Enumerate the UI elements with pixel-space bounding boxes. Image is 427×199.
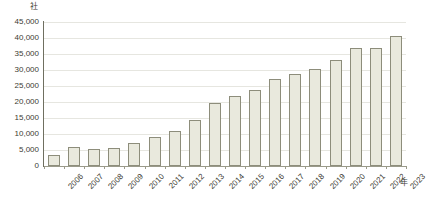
x-axis-tick-label: 2010	[147, 172, 166, 191]
bar[interactable]	[88, 149, 100, 166]
bar-slot	[145, 22, 165, 166]
x-axis-tick-label: 2007	[86, 172, 105, 191]
bar-slot	[305, 22, 325, 166]
bar[interactable]	[330, 60, 342, 166]
y-axis-tick-label: 25,000	[0, 82, 39, 90]
y-axis-tick-label: 5,000	[0, 146, 39, 154]
y-axis-tick-label: 40,000	[0, 34, 39, 42]
bar[interactable]	[269, 79, 281, 166]
x-axis-tick-label: 2017	[287, 172, 306, 191]
bar[interactable]	[189, 120, 201, 166]
bar[interactable]	[309, 69, 321, 166]
bar-slot	[225, 22, 245, 166]
x-axis-tick-label: 2020	[348, 172, 367, 191]
x-axis-tick-label: 2019	[328, 172, 347, 191]
bar-slot	[326, 22, 346, 166]
x-axis-tick-label: 2016	[267, 172, 286, 191]
x-axis-tick-label: 2018	[308, 172, 327, 191]
x-axis-title: 年	[400, 178, 408, 187]
x-axis-tick-label: 2012	[187, 172, 206, 191]
x-axis-tick-label: 2021	[368, 172, 387, 191]
x-axis-tick-label: 2006	[66, 172, 85, 191]
plot-area	[44, 22, 406, 166]
x-axis-tick-label: 2013	[207, 172, 226, 191]
x-axis-tick-label: 2015	[247, 172, 266, 191]
x-axis-tick-label: 2011	[167, 172, 186, 191]
bar[interactable]	[169, 131, 181, 166]
bar-slot	[366, 22, 386, 166]
bar[interactable]	[128, 143, 140, 166]
bar-slot	[104, 22, 124, 166]
y-axis-tick-label: 10,000	[0, 130, 39, 138]
bar-slot	[386, 22, 406, 166]
y-axis-tick-label: 45,000	[0, 18, 39, 26]
bar[interactable]	[370, 48, 382, 166]
bar-slot	[165, 22, 185, 166]
x-axis-tick-label: 2023	[408, 172, 427, 191]
x-axis-tick-label: 2009	[127, 172, 146, 191]
bar[interactable]	[209, 103, 221, 166]
bar[interactable]	[108, 148, 120, 166]
y-axis-tick-label: 15,000	[0, 114, 39, 122]
bar-slot	[64, 22, 84, 166]
bar-slot	[185, 22, 205, 166]
bar-slot	[285, 22, 305, 166]
bar-slot	[124, 22, 144, 166]
y-axis-tick-label: 30,000	[0, 66, 39, 74]
bar-slot	[44, 22, 64, 166]
bar-slot	[346, 22, 366, 166]
bar[interactable]	[229, 96, 241, 166]
x-axis-tickmark	[406, 166, 407, 169]
x-axis-tick-label: 2014	[227, 172, 246, 191]
bar[interactable]	[249, 90, 261, 166]
y-axis-tick-label: 0	[0, 162, 39, 170]
bar-slot	[205, 22, 225, 166]
bar-slot	[265, 22, 285, 166]
y-axis-tick-label: 35,000	[0, 50, 39, 58]
bar[interactable]	[350, 48, 362, 166]
bar[interactable]	[48, 155, 60, 166]
bar[interactable]	[390, 36, 402, 166]
bar[interactable]	[289, 74, 301, 166]
bar[interactable]	[68, 147, 80, 166]
bar-slot	[245, 22, 265, 166]
bar-slot	[84, 22, 104, 166]
x-axis-tick-label: 2008	[106, 172, 125, 191]
x-axis-tick-labels: 2006200720082009201020112012201320142015…	[44, 166, 406, 199]
y-axis-tick-label: 20,000	[0, 98, 39, 106]
bar[interactable]	[149, 137, 161, 166]
y-axis-unit-label: 社	[30, 2, 38, 12]
